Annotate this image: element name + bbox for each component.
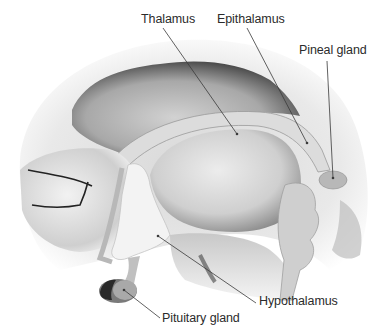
label-hypothalamus: Hypothalamus: [259, 294, 338, 308]
label-thalamus: Thalamus: [141, 12, 195, 26]
label-pituitary-gland: Pituitary gland: [162, 311, 240, 325]
diencephalon-diagram: Thalamus Epithalamus Pineal gland Hypoth…: [0, 0, 380, 333]
label-pineal-gland: Pineal gland: [299, 43, 367, 57]
label-epithalamus: Epithalamus: [217, 12, 285, 26]
